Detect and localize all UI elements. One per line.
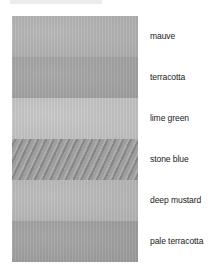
swatch-label: pale terracotta <box>150 235 203 246</box>
color-swatch <box>12 180 138 221</box>
swatch-texture <box>12 16 138 57</box>
swatch-label: lime green <box>150 112 189 123</box>
swatch-row: stone blue <box>0 139 215 180</box>
color-swatch <box>12 16 138 57</box>
cropped-heading <box>10 0 102 4</box>
swatch-row: deep mustard <box>0 180 215 221</box>
swatch-label: deep mustard <box>150 194 201 205</box>
color-swatch <box>12 221 138 262</box>
color-swatch <box>12 139 138 180</box>
color-swatch <box>12 98 138 139</box>
swatch-label: terracotta <box>150 71 185 82</box>
swatch-row: terracotta <box>0 57 215 98</box>
swatch-row: mauve <box>0 16 215 57</box>
swatch-label: mauve <box>150 30 175 41</box>
swatch-texture <box>12 221 138 262</box>
swatch-texture <box>12 57 138 98</box>
swatch-label: stone blue <box>150 153 189 164</box>
swatch-texture <box>12 180 138 221</box>
swatch-row: lime green <box>0 98 215 139</box>
swatch-row: pale terracotta <box>0 221 215 262</box>
color-swatch <box>12 57 138 98</box>
swatch-texture <box>12 98 138 139</box>
swatch-texture <box>12 139 138 180</box>
